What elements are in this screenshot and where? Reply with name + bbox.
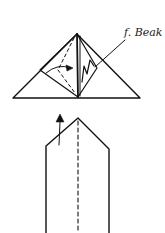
step2-strip xyxy=(46,114,109,233)
step1-triangle xyxy=(13,34,140,98)
step-label-beak: f. Beak xyxy=(124,27,163,38)
origami-diagram: f. Beak xyxy=(0,0,165,233)
